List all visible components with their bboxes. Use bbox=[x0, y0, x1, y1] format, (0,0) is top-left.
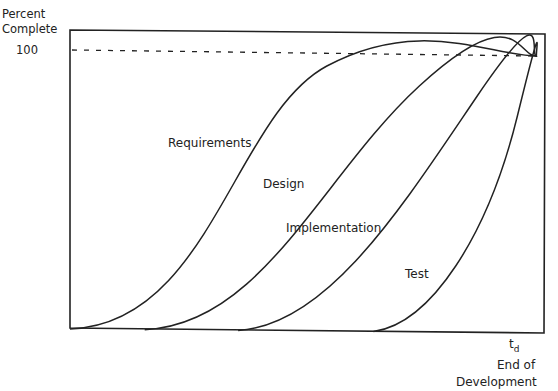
series-line-test bbox=[374, 42, 538, 331]
reference-line-100 bbox=[72, 50, 537, 56]
series-label-requirements: Requirements bbox=[168, 136, 251, 150]
x-tick-td: td bbox=[509, 337, 519, 354]
y-axis-label-line1: Percent bbox=[2, 7, 46, 21]
series-label-design: Design bbox=[263, 177, 304, 191]
x-tick-sub-d: d bbox=[514, 344, 520, 354]
x-axis-label-line2: Development bbox=[456, 375, 537, 389]
series-line-design bbox=[145, 37, 537, 330]
series-label-test: Test bbox=[404, 267, 429, 281]
x-axis-label-line1: End of bbox=[497, 358, 536, 372]
plot-frame bbox=[70, 30, 545, 333]
chart: Percent Complete 100 td End of Developme… bbox=[0, 0, 558, 391]
y-tick-100: 100 bbox=[16, 43, 38, 57]
series-label-implementation: Implementation bbox=[286, 221, 381, 235]
y-axis-label-line2: Complete bbox=[2, 22, 57, 36]
